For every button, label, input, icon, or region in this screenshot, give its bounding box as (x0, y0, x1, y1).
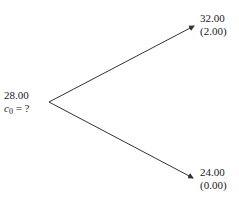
up-payoff: (2.00) (200, 25, 227, 38)
up-price: 32.00 (200, 12, 227, 25)
root-option-value: c0 = ? (4, 102, 29, 115)
up-node: 32.00 (2.00) (200, 12, 227, 38)
down-price: 24.00 (200, 166, 227, 179)
option-rest: = ? (13, 102, 30, 114)
down-branch-arrow (49, 102, 193, 178)
up-branch-arrow (49, 26, 194, 102)
root-node: 28.00 c0 = ? (4, 89, 29, 115)
root-price: 28.00 (4, 89, 29, 102)
binomial-tree-diagram: 28.00 c0 = ? 32.00 (2.00) 24.00 (0.00) (0, 0, 239, 199)
down-node: 24.00 (0.00) (200, 166, 227, 192)
down-payoff: (0.00) (200, 179, 227, 192)
